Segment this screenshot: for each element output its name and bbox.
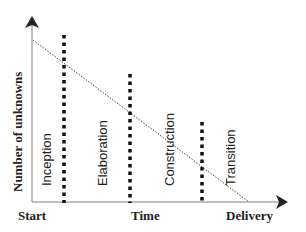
phase-label-transition: Transition (223, 129, 238, 186)
y-axis-label: Number of unknowns (10, 72, 25, 192)
x-label-time: Time (131, 208, 160, 223)
phase-label-elaboration: Elaboration (95, 120, 110, 186)
diagram-canvas: Number of unknowns Inception Elaboration… (0, 0, 306, 232)
phase-label-construction: Construction (162, 113, 177, 186)
phase-label-inception: Inception (39, 133, 54, 186)
x-label-start: Start (18, 208, 47, 223)
x-label-delivery: Delivery (226, 208, 273, 223)
unknowns-over-time-diagram: Number of unknowns Inception Elaboration… (0, 0, 306, 232)
